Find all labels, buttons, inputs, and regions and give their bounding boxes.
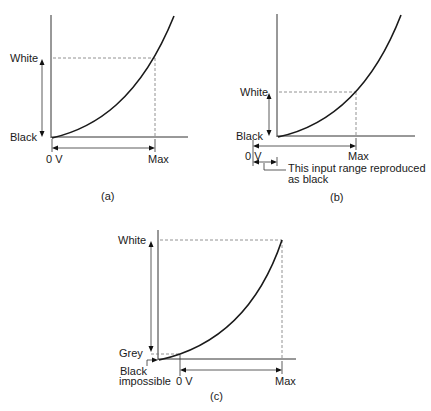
panel-b: White Black 0 V Max This input range rep… — [236, 14, 426, 203]
arrow-right-icon — [271, 160, 277, 165]
label-black: Black — [10, 131, 37, 143]
label-grey: Grey — [119, 347, 143, 359]
label-white: White — [240, 86, 268, 98]
caption-b: (b) — [330, 191, 343, 203]
label-zero-volts: 0 V — [46, 153, 63, 165]
transfer-curve — [159, 240, 282, 360]
arrow-left-icon — [52, 146, 58, 151]
arrow-right-icon — [149, 146, 155, 151]
note-line-2: as black — [288, 173, 329, 185]
label-black: Black — [236, 130, 263, 142]
arrow-down-icon — [267, 130, 272, 136]
panel-c: White Grey Black impossible 0 V Max (c) — [118, 230, 296, 402]
label-white: White — [10, 52, 38, 64]
transfer-curve — [278, 15, 401, 137]
label-white: White — [118, 234, 146, 246]
gamma-diagram-canvas: White Black 0 V Max (a) White Black 0 V … — [0, 0, 431, 411]
arrow-up-icon — [149, 241, 154, 247]
arrow-left-icon — [253, 144, 259, 149]
arrow-right-icon — [276, 368, 282, 373]
label-max: Max — [275, 375, 296, 387]
caption-c: (c) — [210, 390, 223, 402]
label-black-line-2: impossible — [119, 375, 171, 387]
label-max: Max — [148, 153, 169, 165]
arrow-right-icon — [152, 358, 158, 363]
arrow-right-icon — [350, 144, 356, 149]
note-leader-line — [264, 163, 286, 170]
transfer-curve — [52, 16, 174, 138]
arrow-left-icon — [180, 368, 186, 373]
label-zero-volts: 0 V — [245, 150, 262, 162]
black-pointer-line — [147, 360, 152, 366]
arrow-down-icon — [149, 346, 154, 352]
label-zero-volts: 0 V — [176, 375, 193, 387]
arrow-up-icon — [40, 59, 45, 65]
arrow-down-icon — [40, 131, 45, 137]
label-max: Max — [348, 150, 369, 162]
panel-a: White Black 0 V Max (a) — [10, 15, 188, 202]
caption-a: (a) — [101, 190, 114, 202]
